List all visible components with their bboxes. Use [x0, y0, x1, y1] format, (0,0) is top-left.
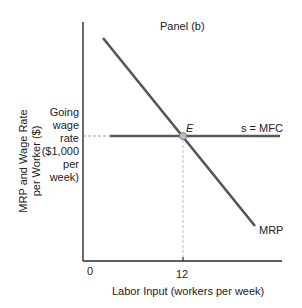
origin-label: 0 — [87, 265, 93, 278]
going-wage-line: week) — [42, 171, 79, 184]
x-axis-label: Labor Input (workers per week) — [112, 285, 264, 298]
mrp-label: MRP — [259, 224, 283, 237]
x-tick-label-12: 12 — [176, 268, 188, 281]
going-wage-line: ($1,000 — [42, 145, 79, 158]
mfc-label: s = MFC — [241, 122, 283, 135]
equilibrium-label: E — [186, 122, 193, 135]
panel-title: Panel (b) — [160, 20, 205, 33]
y-axis-label: MRP and Wage Rate per Worker ($) — [17, 81, 43, 241]
going-wage-line: per — [42, 158, 79, 171]
mrp-line — [103, 38, 255, 226]
going-wage-line: rate — [42, 132, 79, 145]
going-wage-line: wage — [42, 119, 79, 132]
going-wage-label: Going wage rate ($1,000 per week) — [42, 106, 79, 184]
going-wage-line: Going — [42, 106, 79, 119]
y-axis-label-line-1: MRP and Wage Rate — [17, 81, 30, 241]
labor-market-chart: Panel (b) MRP and Wage Rate per Worker (… — [0, 0, 302, 308]
